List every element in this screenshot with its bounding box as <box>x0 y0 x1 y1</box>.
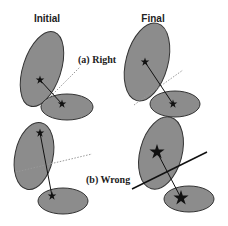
case-label-wrong: (b) Wrong <box>86 174 130 186</box>
panel-b-final <box>131 112 214 212</box>
ellipse-large <box>8 119 59 193</box>
column-title-initial: Initial <box>34 13 60 24</box>
panel-b-initial <box>8 119 92 214</box>
ellipse-small <box>164 186 214 212</box>
column-title-final: Final <box>141 13 165 24</box>
panel-a-initial <box>12 26 93 120</box>
panel-a-final <box>116 18 200 117</box>
ellipse-small <box>38 188 88 214</box>
ellipse-large <box>131 112 191 194</box>
diagram-canvas: Initial Final (a) Right (b) Wrong <box>0 0 228 226</box>
case-label-right: (a) Right <box>78 54 117 66</box>
